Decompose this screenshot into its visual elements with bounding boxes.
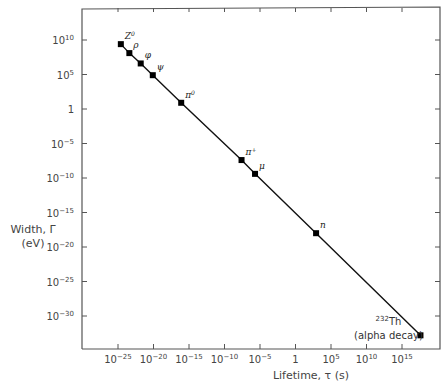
data-point-marker	[150, 72, 156, 78]
data-series	[118, 41, 424, 338]
y-axis-title-line2: (eV)	[22, 237, 45, 250]
y-tick-label: 10−15	[46, 207, 74, 219]
decay-line	[121, 44, 421, 335]
x-tick-label: 1	[292, 354, 298, 365]
y-tick-label: 1	[68, 104, 74, 115]
data-point-marker	[126, 50, 132, 56]
x-tick-label: 10−25	[104, 353, 132, 365]
lifetime-width-chart: 10−2510−2010−1510−1010−5110510101015 101…	[0, 0, 448, 387]
x-tick-label: 1010	[356, 353, 378, 365]
point-note: (alpha decay)	[354, 330, 423, 341]
data-point-marker	[178, 100, 184, 106]
x-tick-label: 1015	[391, 353, 413, 365]
y-tick-label: 1010	[52, 34, 74, 46]
x-tick-label: 10−10	[211, 353, 239, 365]
y-tick-label: 105	[57, 69, 74, 81]
x-axis-title: Lifetime, τ (s)	[273, 369, 349, 382]
y-tick-label: 10−30	[46, 310, 74, 322]
point-label: n	[320, 220, 326, 230]
data-point-marker	[239, 157, 245, 163]
data-point-marker	[313, 230, 319, 236]
point-label: π0	[184, 89, 195, 100]
point-label: ψ	[157, 62, 165, 72]
y-axis-title-line1: Width, Γ	[10, 223, 56, 236]
data-point-marker	[118, 41, 124, 47]
point-label: μ	[259, 161, 265, 171]
data-point-marker	[138, 60, 144, 66]
x-tick-label: 10−20	[140, 353, 168, 365]
y-tick-label: 10−5	[51, 138, 74, 150]
y-axis-ticks: 1010105110−510−1010−1510−2010−2510−30	[46, 34, 440, 322]
x-tick-label: 105	[322, 353, 339, 365]
data-point-marker	[252, 171, 258, 177]
y-tick-label: 10−20	[46, 241, 74, 253]
x-tick-label: 10−5	[248, 353, 271, 365]
point-label: 232Th	[376, 315, 402, 327]
x-axis-ticks: 10−2510−2010−1510−1010−5110510101015	[104, 8, 413, 365]
point-label: ρ	[132, 40, 139, 50]
y-tick-label: 10−25	[46, 276, 74, 288]
y-tick-label: 10−10	[46, 172, 74, 184]
point-label: π+	[245, 146, 257, 157]
point-label: φ	[145, 50, 152, 60]
x-tick-label: 10−15	[175, 353, 203, 365]
